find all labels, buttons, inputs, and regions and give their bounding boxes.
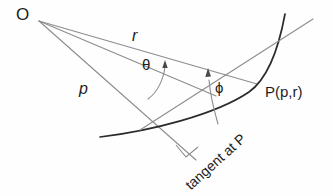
curve — [100, 14, 285, 137]
geometry-figure: O r θ p ϕ P(p,r) tangent at P — [0, 0, 333, 196]
label-theta: θ — [142, 57, 150, 72]
label-radius: r — [132, 28, 137, 44]
label-phi: ϕ — [215, 80, 223, 95]
label-origin: O — [16, 6, 29, 23]
radius-line-r — [39, 21, 257, 84]
angle-theta-arrowhead — [162, 60, 167, 68]
label-pedal: p — [79, 81, 88, 97]
pedal-line-p — [39, 21, 196, 160]
polar-axis-line — [39, 21, 216, 96]
label-point-p: P(p,r) — [265, 84, 303, 99]
right-angle-mark — [176, 145, 198, 157]
